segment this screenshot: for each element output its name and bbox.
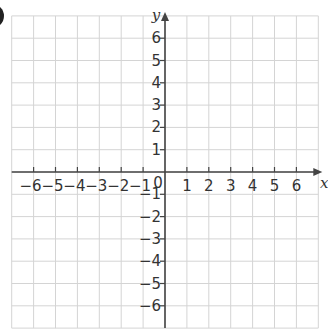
y-tick-label: 2	[151, 118, 161, 136]
y-tick-label: 5	[151, 52, 161, 70]
y-tick-label: 4	[151, 74, 161, 92]
x-axis-label: x	[320, 174, 328, 192]
x-tick-label: 6	[292, 177, 302, 195]
y-tick-label: −5	[139, 275, 161, 293]
x-tick-label: −5	[41, 177, 63, 195]
y-tick-label: 3	[151, 96, 161, 114]
y-tick-label: 6	[151, 29, 161, 47]
x-tick-label: −4	[63, 177, 85, 195]
x-tick-label: 3	[226, 177, 236, 195]
x-tick-label: 4	[248, 177, 258, 195]
axes	[12, 12, 323, 328]
x-tick-label: −2	[107, 177, 129, 195]
y-tick-label: 1	[151, 141, 161, 159]
y-tick-label: −4	[139, 252, 161, 270]
y-tick-label: −2	[139, 208, 161, 226]
y-axis-label: y	[151, 6, 161, 24]
x-tick-label: 2	[204, 177, 214, 195]
x-tick-label: 1	[182, 177, 192, 195]
tick-labels: −6−5−4−3−2−1123456−6−5−4−3−2−11234560xy	[20, 6, 328, 315]
y-tick-label: −6	[139, 297, 161, 315]
x-tick-label: 5	[270, 177, 280, 195]
origin-label: 0	[153, 174, 163, 192]
coordinate-grid: −6−5−4−3−2−1123456−6−5−4−3−2−11234560xy	[0, 0, 328, 332]
y-tick-label: −3	[139, 230, 161, 248]
x-tick-label: −3	[85, 177, 107, 195]
x-tick-label: −6	[20, 177, 42, 195]
